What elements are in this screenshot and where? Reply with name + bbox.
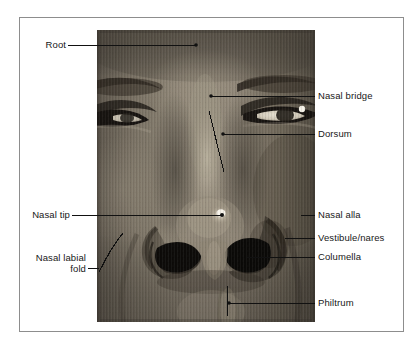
label-nasal-alla: Nasal alla <box>318 209 418 220</box>
label-columella: Columella <box>318 251 418 262</box>
label-nasal-tip: Nasal tip <box>0 209 70 220</box>
label-root: Root <box>0 39 66 50</box>
label-nasal-bridge: Nasal bridge <box>318 90 418 101</box>
face-nose-closeup-photo <box>97 30 315 322</box>
label-vestibule-nares: Vestibule/nares <box>318 232 418 243</box>
label-philtrum: Philtrum <box>318 297 418 308</box>
figure-page: Root Nasal bridge Dorsum Nasal tip Nasal… <box>0 0 419 349</box>
label-nasal-labial-fold: Nasal labial fold <box>0 252 86 274</box>
label-dorsum: Dorsum <box>318 128 418 139</box>
